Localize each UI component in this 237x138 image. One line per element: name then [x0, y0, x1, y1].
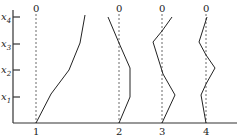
x-tick: 1 [33, 126, 39, 137]
mode-shape-chart: 0 0 0 0 1 2 3 4 x4 x3 x2 x1 [0, 0, 237, 138]
zero-label: 0 [159, 3, 165, 14]
y-tick: x3 [1, 38, 12, 52]
x-tick: 3 [159, 126, 165, 137]
x-tick: 2 [116, 126, 122, 137]
mode-curves [36, 15, 215, 123]
y-tick: x1 [1, 91, 11, 105]
zero-label: 0 [203, 3, 209, 14]
x-tick: 4 [203, 126, 209, 137]
y-tick: x2 [1, 64, 12, 78]
zero-label: 0 [33, 3, 39, 14]
y-tick: x4 [1, 11, 11, 25]
zero-label: 0 [116, 3, 122, 14]
